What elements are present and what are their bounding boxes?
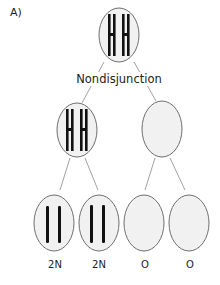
gamete-cell-1 bbox=[34, 195, 74, 251]
chromosome-icon bbox=[90, 205, 93, 243]
gamete-cell-4 bbox=[169, 195, 209, 251]
gamete-cell-2 bbox=[79, 195, 119, 251]
nondisjunction-diagram bbox=[0, 0, 220, 285]
meiosis-i-cell-right bbox=[142, 101, 182, 157]
gamete-label: 2N bbox=[48, 259, 62, 270]
meiosis-i-cell-left bbox=[57, 103, 97, 157]
chromosome-icon bbox=[58, 206, 61, 243]
chromosome-icon bbox=[46, 206, 49, 243]
nondisjunction-label: Nondisjunction bbox=[75, 72, 163, 86]
gamete-label: O bbox=[186, 259, 194, 270]
chromosome-icon bbox=[102, 205, 105, 243]
gamete-label: O bbox=[141, 259, 149, 270]
parent-cell bbox=[99, 8, 139, 62]
gamete-cell-3 bbox=[124, 195, 164, 251]
gamete-label: 2N bbox=[92, 259, 106, 270]
